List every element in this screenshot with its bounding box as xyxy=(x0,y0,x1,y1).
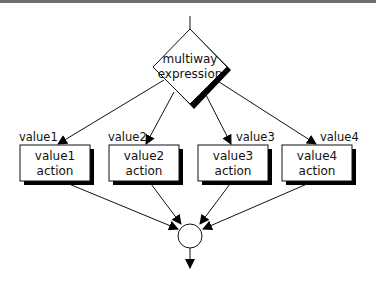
edge-label-value4: value4 xyxy=(320,130,359,144)
svg-text:action: action xyxy=(299,164,336,178)
svg-text:action: action xyxy=(37,164,74,178)
edge-value3 xyxy=(205,93,231,144)
edge-label-value1: value1 xyxy=(19,130,58,144)
action-box-value3: value3 action xyxy=(198,145,272,185)
flowchart: multiway expression value1 value2 value3… xyxy=(0,0,376,287)
decision-line1: multiway xyxy=(163,52,218,66)
merge-edge-value3 xyxy=(200,184,230,224)
merge-edge-value1 xyxy=(69,184,178,229)
action-box-value2: value2 action xyxy=(109,145,183,185)
edge-label-value2: value2 xyxy=(108,130,147,144)
edge-value2 xyxy=(146,92,174,144)
svg-text:action: action xyxy=(215,164,252,178)
merge-edge-value4 xyxy=(203,184,307,229)
svg-text:value1: value1 xyxy=(35,149,75,163)
svg-text:action: action xyxy=(126,164,163,178)
decision-line2: expression xyxy=(158,67,223,81)
svg-text:value2: value2 xyxy=(124,149,164,163)
svg-text:value4: value4 xyxy=(297,149,337,163)
edge-label-value3: value3 xyxy=(236,130,275,144)
action-box-value4: value4 action xyxy=(282,145,356,185)
svg-text:value3: value3 xyxy=(213,149,253,163)
decision-diamond: multiway expression xyxy=(153,29,231,109)
merge-edge-value2 xyxy=(151,184,181,224)
merge-node-circle xyxy=(178,224,202,248)
action-box-value1: value1 action xyxy=(20,145,94,185)
